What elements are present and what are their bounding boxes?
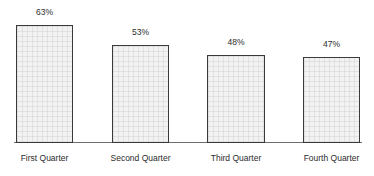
bar-first-quarter[interactable] <box>16 25 73 143</box>
value-label-first-quarter: 63% <box>16 7 73 17</box>
value-label-third-quarter: 48% <box>207 37 265 47</box>
value-label-second-quarter: 53% <box>112 27 169 37</box>
bar-third-quarter[interactable] <box>207 55 265 143</box>
category-label-first-quarter: First Quarter <box>6 153 83 164</box>
category-label-second-quarter: Second Quarter <box>101 153 180 164</box>
bar-second-quarter[interactable] <box>112 45 169 143</box>
plot-area: 63% First Quarter 53% Second Quarter 48%… <box>0 0 374 176</box>
category-label-third-quarter: Third Quarter <box>197 153 275 164</box>
bar-fourth-quarter[interactable] <box>303 57 360 143</box>
bar-chart: 63% First Quarter 53% Second Quarter 48%… <box>0 0 374 176</box>
value-label-fourth-quarter: 47% <box>303 39 360 49</box>
category-label-fourth-quarter: Fourth Quarter <box>291 153 372 164</box>
